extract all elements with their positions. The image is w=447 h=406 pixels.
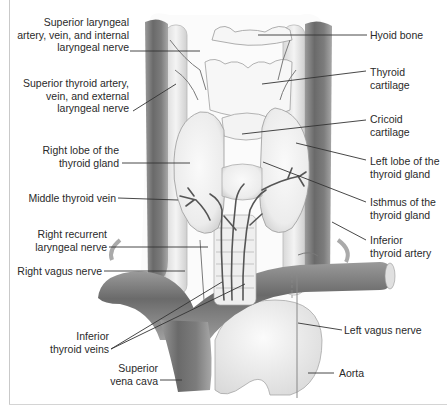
label-aorta: Aorta bbox=[339, 367, 364, 380]
label-inferior-thyroid-veins: Inferior thyroid veins bbox=[40, 330, 109, 355]
label-superior-thyroid: Superior thyroid artery, vein, and exter… bbox=[16, 77, 129, 115]
label-superior-laryngeal: Superior laryngeal artery, vein, and int… bbox=[16, 16, 129, 54]
right-internal-jugular bbox=[145, 19, 168, 282]
label-hyoid-bone: Hyoid bone bbox=[370, 29, 423, 42]
label-left-vagus: Left vagus nerve bbox=[344, 324, 422, 337]
label-right-vagus: Right vagus nerve bbox=[14, 265, 102, 278]
label-cricoid-cartilage: Cricoid cartilage bbox=[370, 113, 410, 138]
label-superior-vena-cava: Superior vena cava bbox=[100, 362, 158, 387]
superior-vena-cava bbox=[160, 320, 212, 392]
label-thyroid-cartilage: Thyroid cartilage bbox=[370, 66, 410, 91]
isthmus bbox=[222, 164, 262, 200]
label-left-lobe: Left lobe of the thyroid gland bbox=[370, 155, 439, 180]
label-middle-thyroid-vein: Middle thyroid vein bbox=[16, 192, 116, 205]
left-internal-jugular bbox=[305, 21, 332, 282]
label-right-lobe: Right lobe of the thyroid gland bbox=[16, 144, 119, 169]
label-right-recurrent-laryngeal: Right recurrent laryngeal nerve bbox=[16, 228, 107, 253]
label-isthmus: Isthmus of the thyroid gland bbox=[370, 196, 436, 221]
thyroid-anatomy-figure: Superior laryngeal artery, vein, and int… bbox=[0, 0, 447, 406]
label-inferior-thyroid-artery: Inferior thyroid artery bbox=[370, 234, 431, 259]
